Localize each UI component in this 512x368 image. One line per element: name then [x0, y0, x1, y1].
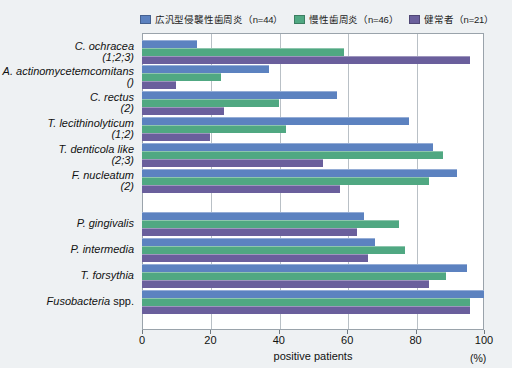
- bar: [142, 228, 357, 236]
- bar: [142, 280, 429, 288]
- species-note: (2;3): [59, 155, 134, 167]
- y-axis-category-label: T. lecithinolyticum(1;2): [48, 118, 134, 141]
- species-note: (1;2): [48, 129, 134, 141]
- bar: [142, 169, 457, 177]
- x-tick-label: 20: [204, 334, 216, 346]
- bar: [142, 73, 221, 81]
- legend-label: 広汎型侵襲性歯周炎（n=44）: [155, 12, 283, 26]
- bar: [142, 220, 399, 228]
- bar: [142, 254, 368, 262]
- bar: [142, 56, 470, 64]
- y-axis-category-label: P. gingivalis: [77, 218, 134, 230]
- bar: [142, 246, 405, 254]
- x-tick-label: 80: [409, 334, 421, 346]
- bar: [142, 40, 197, 48]
- species-note: (2): [72, 181, 134, 193]
- chart-legend: 広汎型侵襲性歯周炎（n=44）慢性歯周炎（n=46）健常者（n=21）: [0, 11, 504, 27]
- x-tick-label: 60: [341, 334, 353, 346]
- legend-swatch-icon: [409, 15, 420, 24]
- bar: [142, 290, 484, 298]
- y-axis-category-label: P. intermedia: [71, 244, 134, 256]
- bar: [142, 264, 467, 272]
- y-axis-category-label: T. forsythia: [81, 270, 134, 282]
- bar: [142, 306, 470, 314]
- y-axis-category-label: T. denticola like(2;3): [59, 144, 134, 167]
- bar: [142, 238, 375, 246]
- bar: [142, 48, 344, 56]
- bar: [142, 185, 340, 193]
- legend-item-aggressive-periodontitis[interactable]: 広汎型侵襲性歯周炎（n=44）: [140, 12, 283, 26]
- species-name: A. actinomycetemcomitans: [3, 66, 134, 78]
- legend-swatch-icon: [140, 15, 151, 24]
- bar: [142, 81, 176, 89]
- species-suffix: spp.: [110, 295, 134, 307]
- species-name: P. gingivalis: [77, 218, 134, 230]
- y-axis-category-label: F. nucleatum(2): [72, 170, 134, 193]
- x-tick-label: 0: [139, 334, 145, 346]
- legend-item-healthy-subjects[interactable]: 健常者（n=21）: [409, 12, 494, 26]
- y-axis-category-label: C. ochracea(1;2;3): [75, 41, 134, 64]
- bar: [142, 143, 433, 151]
- bar: [142, 65, 269, 73]
- bar: [142, 298, 470, 306]
- bar: [142, 99, 279, 107]
- bar: [142, 133, 210, 141]
- bar: [142, 91, 337, 99]
- species-note: (2): [90, 103, 134, 115]
- legend-label: 健常者（n=21）: [424, 12, 494, 26]
- bars-layer: [142, 33, 484, 330]
- bar: [142, 177, 429, 185]
- legend-label: 慢性歯周炎（n=46）: [309, 12, 398, 26]
- bar: [142, 107, 224, 115]
- legend-item-chronic-periodontitis[interactable]: 慢性歯周炎（n=46）: [294, 12, 398, 26]
- x-tick-label: 40: [273, 334, 285, 346]
- x-tick-label: 100: [475, 334, 493, 346]
- species-note: (): [3, 77, 134, 89]
- bar: [142, 117, 409, 125]
- species-name: T. forsythia: [81, 270, 134, 282]
- species-note: (1;2;3): [75, 52, 134, 64]
- bar: [142, 212, 364, 220]
- bar: [142, 125, 286, 133]
- y-axis-category-label: C. rectus(2): [90, 92, 134, 115]
- chart-figure: 広汎型侵襲性歯周炎（n=44）慢性歯周炎（n=46）健常者（n=21） C. o…: [0, 0, 512, 368]
- bar: [142, 151, 443, 159]
- species-name: P. intermedia: [71, 244, 134, 256]
- x-axis-title: positive patients: [142, 350, 484, 362]
- y-axis-labels: C. ochracea(1;2;3)A. actinomycetemcomita…: [0, 33, 138, 330]
- bar: [142, 159, 323, 167]
- species-name: Fusobacteria spp.: [47, 296, 134, 308]
- y-axis-category-label: A. actinomycetemcomitans(): [3, 66, 134, 89]
- y-axis-category-label: Fusobacteria spp.: [47, 296, 134, 308]
- x-axis-unit: (%): [470, 352, 486, 364]
- legend-swatch-icon: [294, 15, 305, 24]
- bar: [142, 272, 446, 280]
- x-axis-ticks: 020406080100: [142, 330, 484, 344]
